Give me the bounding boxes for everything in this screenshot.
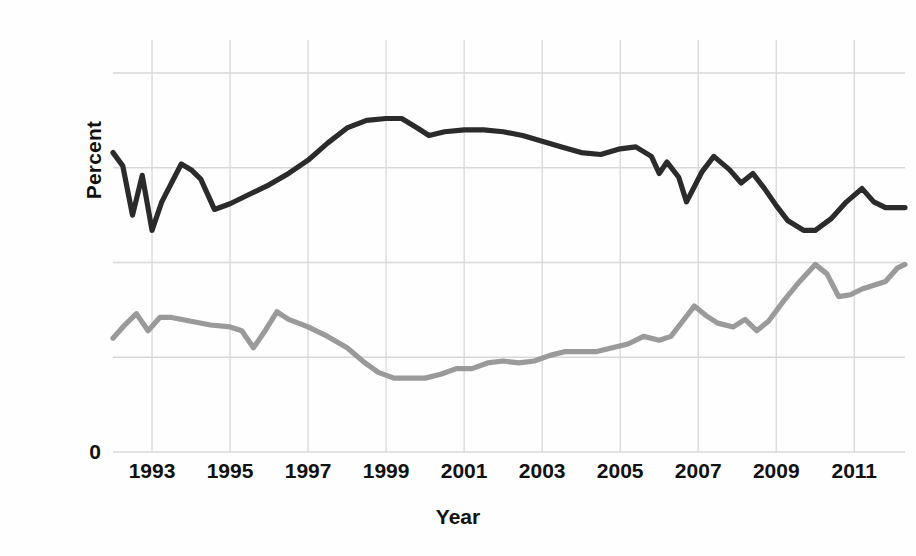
x-tick-label: 2009 — [753, 459, 800, 483]
x-tick-label: 1993 — [129, 459, 176, 483]
y-tick-label: 0 — [89, 440, 101, 464]
x-tick-label: 2003 — [519, 459, 566, 483]
chart-figure: Percent Year 199319951997199920012003200… — [0, 0, 916, 556]
x-tick-label: 2007 — [675, 459, 722, 483]
x-axis-title: Year — [0, 505, 916, 529]
x-tick-label: 1995 — [207, 459, 254, 483]
series-line-dark-series — [113, 118, 905, 230]
x-tick-label: 1999 — [363, 459, 410, 483]
horizontal-gridlines — [113, 73, 905, 452]
x-tick-label: 1997 — [285, 459, 332, 483]
series-lines — [113, 118, 905, 378]
vertical-gridlines — [152, 40, 854, 452]
x-tick-label: 2001 — [441, 459, 488, 483]
series-line-gray-series — [113, 264, 905, 378]
x-tick-label: 2011 — [831, 459, 877, 483]
x-tick-label: 2005 — [597, 459, 644, 483]
y-axis-title: Percent — [82, 60, 106, 260]
